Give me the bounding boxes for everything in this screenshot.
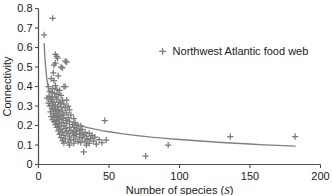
y-axis-tick-label: 0.8 — [17, 2, 32, 14]
x-axis-tick-label: 100 — [170, 170, 188, 182]
y-axis-title: Connectivity — [1, 56, 13, 116]
y-axis-tick-label: 0.5 — [17, 61, 32, 73]
y-axis-tick-label: 0 — [26, 158, 32, 170]
x-axis-title: Number of species (S) — [126, 184, 234, 196]
y-axis-tick-label: 0.7 — [17, 22, 32, 34]
y-axis-tick-label: 0.1 — [17, 139, 32, 151]
x-axis-tick-label: 200 — [311, 170, 329, 182]
y-axis-tick-label: 0.4 — [17, 80, 32, 92]
legend: Northwest Atlantic food web — [159, 45, 308, 57]
x-axis-tick-label: 0 — [35, 170, 41, 182]
x-axis-tick-label: 50 — [103, 170, 115, 182]
connectivity-vs-species-scatter-plot: 00.10.20.30.40.50.60.70.8 050100150200 N… — [0, 0, 332, 195]
y-axis-tick-labels: 00.10.20.30.40.50.60.70.8 — [17, 2, 32, 170]
y-axis-tick-label: 0.3 — [17, 100, 32, 112]
y-axis-tick-label: 0.2 — [17, 119, 32, 131]
legend-label: Northwest Atlantic food web — [173, 45, 309, 57]
y-axis-tick-label: 0.6 — [17, 41, 32, 53]
x-axis-tick-label: 150 — [241, 170, 259, 182]
chart-container: 00.10.20.30.40.50.60.70.8 050100150200 N… — [0, 0, 332, 195]
